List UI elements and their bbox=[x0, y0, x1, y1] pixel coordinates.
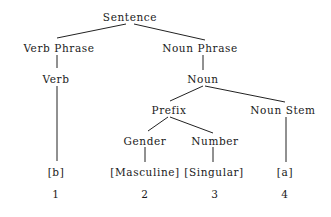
edge-sentence-verb_phrase bbox=[57, 24, 126, 38]
index-1: 1 bbox=[52, 188, 59, 200]
node-prefix: Prefix bbox=[151, 104, 186, 116]
node-gender: Gender bbox=[124, 135, 167, 147]
leaf-a: [a] bbox=[277, 166, 293, 178]
node-noun: Noun bbox=[187, 73, 218, 85]
node-verb-phrase: Verb Phrase bbox=[23, 42, 94, 54]
edge-sentence-noun_phrase bbox=[134, 24, 205, 40]
leaf-singular: [Singular] bbox=[184, 166, 244, 178]
node-noun-stem: Noun Stem bbox=[250, 104, 315, 116]
syntax-tree-diagram: Sentence Verb Phrase Noun Phrase Verb No… bbox=[0, 0, 331, 217]
edge-prefix-gender bbox=[148, 117, 168, 131]
node-number: Number bbox=[191, 135, 238, 147]
node-verb: Verb bbox=[43, 73, 70, 85]
index-3: 3 bbox=[211, 188, 218, 200]
node-noun-phrase: Noun Phrase bbox=[162, 42, 238, 54]
index-4: 4 bbox=[281, 188, 288, 200]
edge-prefix-number bbox=[170, 117, 213, 133]
leaf-masculine: [Masculine] bbox=[110, 166, 180, 178]
edge-noun-prefix bbox=[170, 86, 203, 101]
index-2: 2 bbox=[141, 188, 148, 200]
node-sentence: Sentence bbox=[103, 11, 157, 23]
leaf-b: [b] bbox=[48, 166, 65, 178]
edge-noun-noun_stem bbox=[205, 86, 285, 102]
